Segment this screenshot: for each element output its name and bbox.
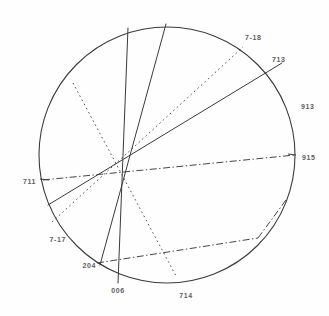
label-913: 913 xyxy=(301,103,314,110)
chord-913-arc-dashdot xyxy=(258,200,286,238)
label-7-18: 7-18 xyxy=(245,34,261,41)
stereographic-projection-figure: 7-18 713 913 915 711 7-17 204 006 714 xyxy=(0,0,329,316)
chord-7-17-7-18 xyxy=(52,47,243,222)
pole-label-group: 7-18 713 913 915 711 7-17 204 006 714 xyxy=(23,34,316,299)
chord-711-713 xyxy=(48,63,282,205)
projection-canvas: 7-18 713 913 915 711 7-17 204 006 714 xyxy=(0,0,329,316)
dotted-trace-group xyxy=(52,47,243,276)
primitive-circle xyxy=(39,27,295,283)
chord-vertical-006 xyxy=(118,28,128,283)
label-713: 713 xyxy=(272,56,285,63)
tick-mark-group xyxy=(40,154,296,180)
dashdot-trace-group xyxy=(43,155,295,263)
chord-204-714-dashdot xyxy=(97,238,258,263)
label-204: 204 xyxy=(83,262,96,269)
solid-trace-group xyxy=(48,24,282,283)
chord-204-steep xyxy=(100,24,166,265)
label-714: 714 xyxy=(179,292,192,299)
label-7-17: 7-17 xyxy=(50,236,66,243)
label-006: 006 xyxy=(111,287,124,294)
chord-711-915 xyxy=(43,155,295,180)
label-915: 915 xyxy=(302,154,315,161)
label-711: 711 xyxy=(23,178,36,185)
